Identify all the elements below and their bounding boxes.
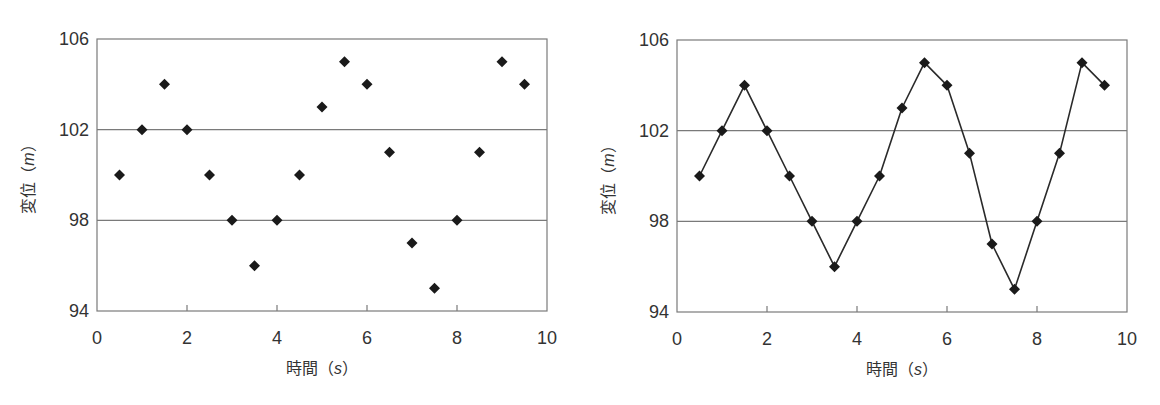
series-line <box>700 63 1105 290</box>
data-point-diamond-icon <box>874 171 885 182</box>
data-point-diamond-icon <box>762 125 773 136</box>
y-tick-label: 94 <box>609 302 669 322</box>
y-tick-label: 106 <box>609 30 669 50</box>
data-point-diamond-icon <box>987 239 998 250</box>
y-unit: m <box>600 153 617 166</box>
data-point-diamond-icon <box>784 171 795 182</box>
x-tick-label: 6 <box>927 329 967 349</box>
data-point-diamond-icon <box>739 80 750 91</box>
data-point-diamond-icon <box>964 148 975 159</box>
line-chart: 94981021060246810時間（s）変位（m） <box>0 0 1160 405</box>
x-tick-label: 2 <box>747 329 787 349</box>
data-point-diamond-icon <box>897 103 908 114</box>
plot-area <box>0 0 1160 405</box>
data-point-diamond-icon <box>694 171 705 182</box>
y-axis-title: 変位（m） <box>599 116 619 236</box>
data-point-diamond-icon <box>1054 148 1065 159</box>
x-tick-label: 4 <box>837 329 877 349</box>
data-point-diamond-icon <box>1032 216 1043 227</box>
data-point-diamond-icon <box>852 216 863 227</box>
data-point-diamond-icon <box>829 261 840 272</box>
x-axis-title: 時間（s） <box>802 360 1002 380</box>
data-point-diamond-icon <box>1009 284 1020 295</box>
x-unit: s <box>914 361 922 378</box>
data-point-diamond-icon <box>807 216 818 227</box>
x-tick-label: 8 <box>1017 329 1057 349</box>
x-tick-label: 10 <box>1107 329 1147 349</box>
data-point-diamond-icon <box>717 125 728 136</box>
x-tick-label: 0 <box>657 329 697 349</box>
